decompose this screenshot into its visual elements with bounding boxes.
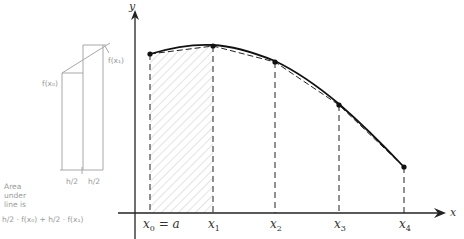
x-tick-labels: x0 = a x1 x2 x3 x4 <box>143 217 411 233</box>
svg-text:x0 = a: x0 = a <box>143 217 180 233</box>
note-line-3: line is <box>4 200 26 209</box>
svg-text:x4: x4 <box>399 217 411 233</box>
shaded-region <box>150 46 213 213</box>
area-formula: h/2 · f(x₀) + h/2 · f(x₁) <box>2 215 83 224</box>
pencil-notes: f(x₀) f(x₁) h/2 h/2 Area under line is h… <box>2 56 124 224</box>
note-line-1: Area <box>4 182 21 191</box>
note-line-2: under <box>4 191 27 200</box>
trapezoid-diagram: y x x0 = a x1 x2 x3 x4 <box>0 0 464 239</box>
label-fx1: f(x₁) <box>108 56 124 65</box>
y-axis-label: y <box>128 0 136 13</box>
svg-text:x3: x3 <box>334 217 346 233</box>
svg-text:x1: x1 <box>208 217 220 233</box>
x-axis-label: x <box>450 206 457 219</box>
label-fx0: f(x₀) <box>42 79 58 88</box>
pencil-sketch <box>60 43 110 174</box>
label-half-h-right: h/2 <box>88 177 100 186</box>
label-half-h-left: h/2 <box>66 177 78 186</box>
svg-text:x2: x2 <box>270 217 282 233</box>
